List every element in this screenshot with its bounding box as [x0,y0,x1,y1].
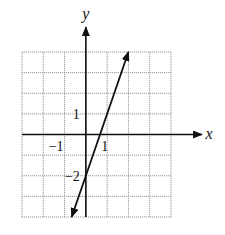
y-tick-label: −2 [65,169,80,184]
x-tick-label: −1 [49,139,64,154]
axes [22,27,202,217]
tick-labels: xy−111−2 [49,5,213,184]
y-tick-label: 1 [73,107,80,122]
y-axis-label: y [80,5,90,23]
x-axis-label: x [204,125,212,142]
coordinate-plane: xy−111−2 [0,0,225,235]
x-tick-label: 1 [101,139,108,154]
